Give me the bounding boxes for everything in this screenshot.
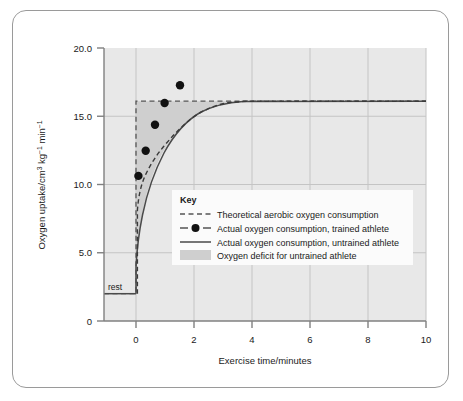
x-axis-ticks — [136, 321, 426, 328]
data-point — [160, 99, 168, 107]
legend-label-trained: Actual oxygen consumption, trained athle… — [217, 224, 389, 234]
legend-label-deficit: Oxygen deficit for untrained athlete — [217, 251, 357, 261]
y-axis-tick-labels: 20.0 15.0 10.0 5.0 0 — [74, 43, 93, 327]
ytick-label-10: 10.0 — [74, 179, 93, 190]
data-point — [142, 147, 150, 155]
oxygen-uptake-chart: 20.0 15.0 10.0 5.0 0 0 2 4 6 8 10 Exerci… — [0, 0, 463, 401]
y-axis-title: Oxygen uptake/cm3 kg−1 min−1 — [36, 120, 48, 249]
xtick-label-6: 6 — [307, 334, 312, 345]
y-axis-ticks — [97, 48, 104, 321]
y-axis-title-main: Oxygen uptake/cm — [36, 170, 47, 249]
ytick-label-0: 0 — [87, 316, 92, 327]
xtick-label-4: 4 — [249, 334, 254, 345]
legend-item-deficit: Oxygen deficit for untrained athlete — [180, 250, 357, 261]
legend-label-untrained: Actual oxygen consumption, untrained ath… — [217, 238, 399, 248]
xtick-label-0: 0 — [133, 334, 138, 345]
ytick-label-15: 15.0 — [74, 111, 93, 122]
x-axis-tick-labels: 0 2 4 6 8 10 — [133, 334, 431, 345]
legend-fill-swatch-icon — [180, 250, 211, 260]
chart-stage: 20.0 15.0 10.0 5.0 0 0 2 4 6 8 10 Exerci… — [0, 0, 463, 401]
legend-marker-dot-icon — [192, 224, 200, 232]
legend-title: Key — [180, 195, 197, 205]
rest-annotation-label: rest — [108, 282, 123, 292]
y-axis-title-mid: kg — [36, 154, 47, 167]
data-point — [176, 81, 184, 89]
ytick-label-20: 20.0 — [74, 43, 93, 54]
legend: Key Theoretical aerobic oxygen consumpti… — [172, 190, 413, 265]
data-point — [151, 121, 159, 129]
xtick-label-2: 2 — [191, 334, 196, 345]
ytick-label-5: 5.0 — [79, 247, 92, 258]
y-axis-title-mid2: min — [36, 128, 47, 146]
legend-label-theoretical: Theoretical aerobic oxygen consumption — [217, 210, 379, 220]
x-axis-title: Exercise time/minutes — [219, 355, 312, 366]
xtick-label-8: 8 — [365, 334, 370, 345]
y-axis-title-sup-min: −1 — [36, 120, 43, 128]
xtick-label-10: 10 — [421, 334, 432, 345]
data-point — [134, 172, 142, 180]
